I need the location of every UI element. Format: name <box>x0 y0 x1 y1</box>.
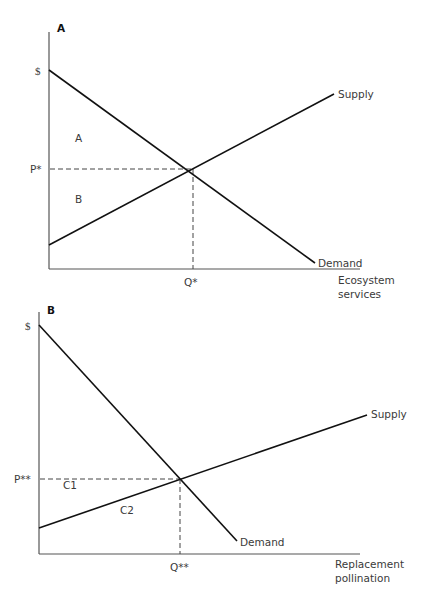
panel-b-supply-label: Supply <box>371 408 407 420</box>
panel-a-demand-line <box>49 70 315 263</box>
panel-b-x-axis-label-line2: pollination <box>335 572 390 584</box>
panel-a-demand-label: Demand <box>318 257 363 269</box>
panel-b-region-c2: C2 <box>120 504 134 516</box>
panel-a-y-axis-label: $ <box>35 65 41 77</box>
panel-a-x-axis-label-line1: Ecosystem <box>338 274 395 286</box>
panel-a: A $ Supply Demand P* Q* A B Ecosystem se… <box>30 22 395 300</box>
panel-a-quantity-label: Q* <box>184 276 198 288</box>
supply-demand-figure: A $ Supply Demand P* Q* A B Ecosystem se… <box>0 0 424 599</box>
panel-b-label: B <box>47 304 55 316</box>
panel-a-region-a: A <box>75 132 83 144</box>
panel-a-region-b: B <box>75 193 82 205</box>
panel-a-supply-label: Supply <box>338 88 374 100</box>
panel-a-label: A <box>57 22 66 34</box>
panel-b-y-axis-label: $ <box>25 320 31 332</box>
panel-b-demand-line <box>39 325 237 541</box>
panel-b: B $ Supply Demand P** Q** C1 C2 Replacem… <box>14 304 407 584</box>
panel-a-x-axis-label-line2: services <box>338 288 381 300</box>
panel-b-region-c1: C1 <box>63 479 77 491</box>
panel-b-supply-line <box>39 415 367 528</box>
panel-b-quantity-label: Q** <box>170 561 189 573</box>
panel-b-demand-label: Demand <box>240 536 285 548</box>
panel-b-x-axis-label-line1: Replacement <box>335 558 404 570</box>
panel-a-price-label: P* <box>30 163 42 175</box>
panel-b-price-label: P** <box>14 473 31 485</box>
